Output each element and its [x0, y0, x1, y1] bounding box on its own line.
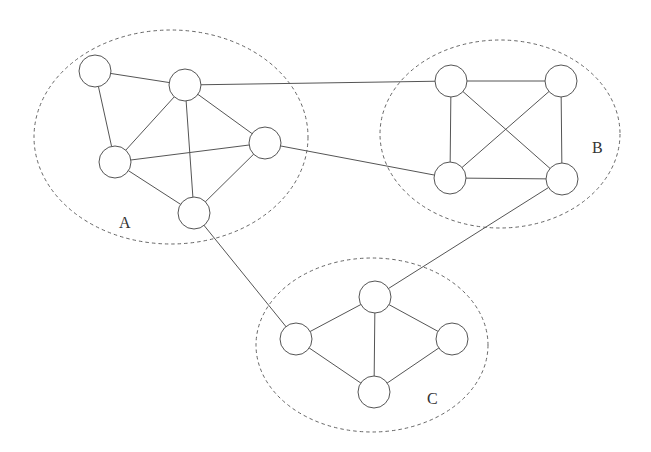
node-b2 [545, 65, 577, 97]
cluster-layer [34, 30, 620, 432]
edge-a2-b1 [185, 81, 451, 85]
node-b3 [434, 162, 466, 194]
node-c4 [358, 376, 390, 408]
node-a3 [99, 146, 131, 178]
network-diagram: ABC [0, 0, 651, 452]
edge-b3-b4 [450, 178, 562, 179]
cluster-b-label: B [592, 139, 603, 156]
node-c2 [280, 323, 312, 355]
node-a1 [79, 55, 111, 87]
node-c1 [359, 281, 391, 313]
node-c3 [436, 323, 468, 355]
cluster-a-label: A [119, 214, 131, 231]
node-b4 [546, 163, 578, 195]
node-a5 [178, 197, 210, 229]
node-a4 [249, 127, 281, 159]
node-b1 [435, 65, 467, 97]
node-layer [79, 55, 578, 408]
edge-a4-b3 [265, 143, 450, 178]
cluster-c-label: C [427, 390, 438, 407]
node-a2 [169, 69, 201, 101]
edge-layer [95, 71, 562, 392]
edge-a2-a5 [185, 85, 194, 213]
edge-a5-c2 [194, 213, 296, 339]
edge-b1-b4 [451, 81, 562, 179]
edge-b4-c1 [375, 179, 562, 297]
